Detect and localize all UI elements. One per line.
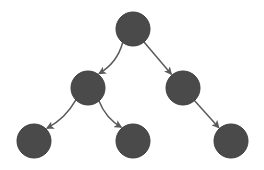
node-right (166, 71, 200, 105)
node-root (116, 12, 150, 46)
tree-diagram (0, 0, 264, 170)
edge-left-to-left-left (47, 100, 76, 128)
edge-left-to-left-right (99, 101, 121, 127)
node-left-left (17, 124, 51, 158)
node-group (17, 12, 248, 158)
edge-root-to-right (144, 42, 171, 74)
node-left (71, 71, 105, 105)
edge-root-to-left (99, 43, 123, 74)
node-right-right (214, 124, 248, 158)
edge-right-to-right-right (194, 101, 219, 128)
node-left-right (116, 124, 150, 158)
